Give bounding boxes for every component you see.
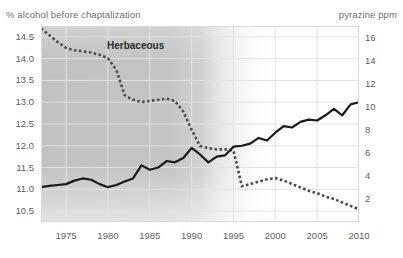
left-tick-label: 12.0 — [0, 140, 34, 151]
right-axis-title: pyrazine ppm — [339, 9, 397, 20]
chart-container: % alcohol before chaptalization pyrazine… — [0, 0, 403, 258]
x-tick-label: 2000 — [255, 230, 295, 241]
right-tick-label: 8 — [365, 124, 399, 135]
x-tick-label: 1990 — [172, 230, 212, 241]
right-tick-label: 6 — [365, 147, 399, 158]
right-tick-label: 2 — [365, 193, 399, 204]
right-tick-label: 14 — [365, 55, 399, 66]
left-tick-label: 11.5 — [0, 162, 34, 173]
left-tick-label: 13.0 — [0, 96, 34, 107]
chart-svg — [41, 26, 359, 222]
x-tick-label: 1980 — [88, 230, 128, 241]
right-tick-label: 16 — [365, 32, 399, 43]
plot-area — [41, 26, 359, 222]
right-tick-label: 10 — [365, 101, 399, 112]
left-tick-label: 13.5 — [0, 74, 34, 85]
herbaceous-annotation: Herbaceous — [107, 40, 164, 51]
left-tick-label: 14.5 — [0, 31, 34, 42]
x-tick-label: 2010 — [339, 230, 379, 241]
left-tick-label: 14.0 — [0, 53, 34, 64]
x-tick-label: 1995 — [213, 230, 253, 241]
left-tick-label: 12.5 — [0, 118, 34, 129]
right-tick-label: 4 — [365, 170, 399, 181]
x-tick-label: 1985 — [130, 230, 170, 241]
left-tick-label: 11.0 — [0, 183, 34, 194]
right-tick-label: 12 — [365, 78, 399, 89]
left-tick-label: 10.5 — [0, 205, 34, 216]
x-tick-label: 1975 — [46, 230, 86, 241]
x-tick-label: 2005 — [297, 230, 337, 241]
left-axis-title: % alcohol before chaptalization — [6, 9, 141, 20]
